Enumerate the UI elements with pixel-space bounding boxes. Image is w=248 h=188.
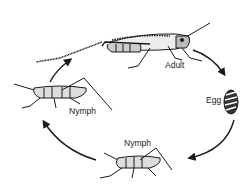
stage-label-nymph-late: Nymph bbox=[124, 139, 151, 148]
egg-illustration bbox=[224, 90, 238, 114]
arrow-adult-to-egg bbox=[193, 50, 224, 74]
arrow-nymph-to-nymph bbox=[44, 122, 96, 160]
stage-label-nymph-early: Nymph bbox=[69, 107, 96, 116]
stage-label-egg: Egg bbox=[206, 96, 221, 105]
nymph-late-illustration bbox=[100, 148, 172, 178]
arrow-egg-to-nymph bbox=[190, 120, 234, 158]
life-cycle-diagram: Adult Egg Nymph Nymph bbox=[0, 0, 248, 188]
arrow-nymph-to-adult bbox=[50, 60, 70, 82]
stage-label-adult: Adult bbox=[165, 61, 184, 70]
nymph-early-illustration bbox=[14, 78, 112, 110]
